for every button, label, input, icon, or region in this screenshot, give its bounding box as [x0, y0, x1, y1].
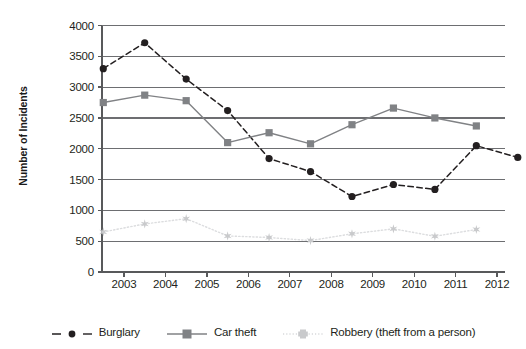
data-point-marker — [473, 122, 480, 129]
data-point-marker — [265, 129, 272, 136]
legend-item-robbery[interactable]: Robbery (theft from a person) — [282, 326, 475, 338]
data-point-marker — [472, 225, 480, 234]
data-point-marker — [183, 76, 190, 83]
data-point-marker — [431, 186, 438, 193]
legend-label-burglary: Burglary — [99, 326, 140, 338]
data-point-marker — [141, 92, 148, 99]
series-burglary — [100, 39, 522, 200]
data-point-marker — [348, 193, 355, 200]
data-point-marker — [348, 121, 355, 128]
dotted-line-star-marker-icon — [282, 326, 324, 338]
plot-area — [0, 0, 526, 349]
data-point-marker — [224, 139, 231, 146]
data-point-marker — [100, 99, 107, 106]
data-point-marker — [431, 114, 438, 121]
dashed-line-circle-marker-icon — [51, 326, 93, 338]
data-point-marker — [224, 231, 232, 240]
solid-line-square-marker-icon — [166, 326, 208, 338]
data-point-marker — [100, 65, 107, 72]
data-point-marker — [390, 104, 397, 111]
legend-item-burglary[interactable]: Burglary — [51, 326, 140, 338]
legend-label-car-theft: Car theft — [214, 326, 256, 338]
data-point-marker — [307, 140, 314, 147]
series-car-theft — [100, 92, 480, 148]
data-point-marker — [141, 39, 148, 46]
data-point-marker — [514, 154, 521, 161]
legend-label-robbery: Robbery (theft from a person) — [330, 326, 475, 338]
incidents-line-chart: Number of Incidents 05001000150020002500… — [0, 0, 526, 349]
data-point-marker — [99, 227, 107, 236]
legend-item-car-theft[interactable]: Car theft — [166, 326, 256, 338]
series-line — [103, 219, 476, 241]
data-point-marker — [183, 97, 190, 104]
series-robbery-theft-from-a-person — [99, 214, 480, 245]
data-point-marker — [265, 155, 272, 162]
data-point-marker — [390, 181, 397, 188]
data-point-marker — [224, 107, 231, 114]
data-point-marker — [473, 142, 480, 149]
series-line — [103, 95, 476, 144]
data-point-marker — [307, 168, 314, 175]
chart-legend: Burglary Car theft Robb — [0, 320, 526, 344]
